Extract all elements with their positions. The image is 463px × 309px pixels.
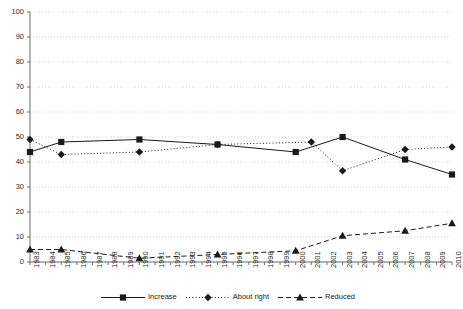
x-tick-2009: 2009 bbox=[439, 251, 447, 268]
x-tick-2002: 2002 bbox=[330, 251, 338, 268]
x-tick-1995: 1995 bbox=[221, 251, 229, 268]
x-tick-2004: 2004 bbox=[361, 251, 369, 268]
x-tick-2001: 2001 bbox=[314, 251, 322, 268]
x-tick-1994: 1994 bbox=[205, 251, 213, 268]
y-tick-90: 90 bbox=[2, 33, 24, 41]
x-tick-2005: 2005 bbox=[377, 251, 385, 268]
y-tick-80: 80 bbox=[2, 58, 24, 66]
chart-legend: IncreaseAbout rightReduced bbox=[0, 288, 456, 306]
x-tick-1997: 1997 bbox=[252, 251, 260, 268]
legend-key-diamond-icon bbox=[186, 292, 230, 303]
x-tick-1992: 1992 bbox=[174, 251, 182, 268]
y-tick-0: 0 bbox=[2, 258, 24, 266]
x-tick-1983: 1983 bbox=[33, 251, 41, 268]
legend-label: About right bbox=[233, 293, 269, 301]
legend-key-square-icon bbox=[101, 292, 145, 303]
legend-item-reduced[interactable]: Reduced bbox=[278, 292, 355, 303]
x-tick-1984: 1984 bbox=[49, 251, 57, 268]
x-tick-1998: 1998 bbox=[267, 251, 275, 268]
x-tick-2008: 2008 bbox=[424, 251, 432, 268]
legend-item-about-right[interactable]: About right bbox=[186, 292, 269, 303]
legend-item-increase[interactable]: Increase bbox=[101, 292, 177, 303]
x-tick-1987: 1987 bbox=[96, 251, 104, 268]
x-tick-2006: 2006 bbox=[392, 251, 400, 268]
y-tick-30: 30 bbox=[2, 183, 24, 191]
y-tick-50: 50 bbox=[2, 133, 24, 141]
y-tick-20: 20 bbox=[2, 208, 24, 216]
y-tick-100: 100 bbox=[2, 8, 24, 16]
x-tick-1990: 1990 bbox=[142, 251, 150, 268]
x-tick-1988: 1988 bbox=[111, 251, 119, 268]
x-tick-1989: 1989 bbox=[127, 251, 135, 268]
x-tick-1993: 1993 bbox=[189, 251, 197, 268]
x-tick-1991: 1991 bbox=[158, 251, 166, 268]
legend-label: Increase bbox=[148, 293, 177, 301]
y-tick-40: 40 bbox=[2, 158, 24, 166]
x-tick-1985: 1985 bbox=[64, 251, 72, 268]
x-tick-2003: 2003 bbox=[346, 251, 354, 268]
x-tick-1999: 1999 bbox=[283, 251, 291, 268]
legend-key-triangle-icon bbox=[278, 292, 322, 303]
x-tick-2007: 2007 bbox=[408, 251, 416, 268]
y-tick-10: 10 bbox=[2, 233, 24, 241]
x-tick-1996: 1996 bbox=[236, 251, 244, 268]
legend-label: Reduced bbox=[325, 293, 355, 301]
x-tick-2010: 2010 bbox=[455, 251, 463, 268]
y-tick-60: 60 bbox=[2, 108, 24, 116]
x-tick-1986: 1986 bbox=[80, 251, 88, 268]
y-tick-70: 70 bbox=[2, 83, 24, 91]
x-tick-2000: 2000 bbox=[299, 251, 307, 268]
